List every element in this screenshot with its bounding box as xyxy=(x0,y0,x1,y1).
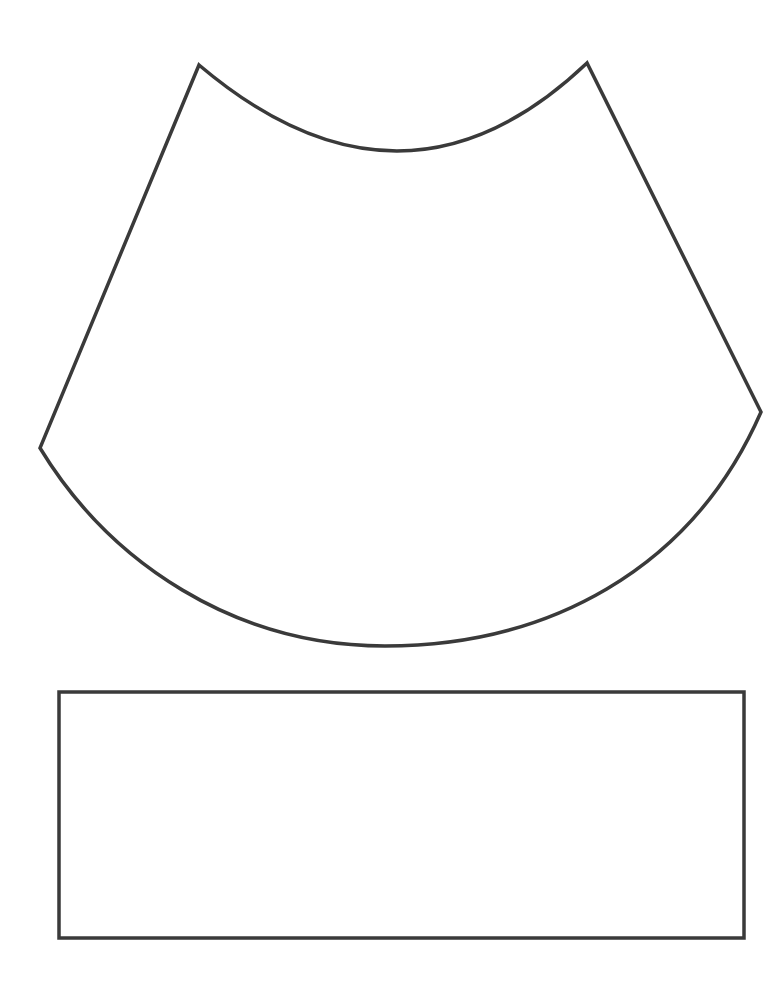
template-canvas xyxy=(0,0,767,987)
rectangle-strip-outline xyxy=(59,692,744,938)
cone-sector-outline xyxy=(40,63,761,646)
